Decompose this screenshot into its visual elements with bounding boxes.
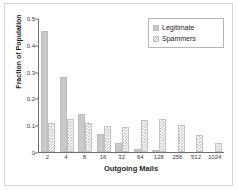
bar-legitimate-16 [97, 134, 104, 152]
bar-group [95, 19, 114, 152]
bar-spammers-4 [67, 119, 74, 152]
bar-spammers-1024 [215, 143, 222, 152]
bar-legitimate-2 [41, 31, 48, 152]
bar-legitimate-32 [115, 143, 122, 152]
bar-spammers-64 [141, 120, 148, 152]
legend-item-legitimate: Legitimate [153, 24, 219, 31]
legend-label-spammers: Spammers [162, 35, 196, 42]
legend-swatch-spammers-icon [153, 36, 159, 42]
bar-spammers-32 [122, 127, 129, 152]
bar-spammers-8 [85, 123, 92, 152]
legend-swatch-legitimate-icon [153, 25, 159, 31]
y-tick-label: 0.5 [27, 16, 35, 22]
y-tick-label: 0.4 [27, 43, 35, 49]
y-tick-label: 0.1 [27, 123, 35, 129]
y-tick-label: 0.2 [27, 96, 35, 102]
legend-item-spammers: Spammers [153, 35, 219, 42]
bar-legitimate-64 [134, 149, 141, 152]
legend: Legitimate Spammers [148, 18, 224, 48]
bar-spammers-2 [48, 123, 55, 152]
y-tick-label: 0.3 [27, 70, 35, 76]
bar-spammers-128 [159, 119, 166, 153]
bar-group [113, 19, 132, 152]
bar-legitimate-8 [78, 114, 85, 152]
bar-group [58, 19, 77, 152]
bar-legitimate-128 [152, 150, 159, 152]
figure: Fraction of Population 00.10.20.30.40.5 … [0, 0, 238, 190]
bar-legitimate-4 [60, 77, 67, 152]
legend-label-legitimate: Legitimate [162, 24, 194, 31]
bar-group [39, 19, 58, 152]
y-axis-ticks: 00.10.20.30.40.5 [0, 19, 38, 153]
bar-spammers-16 [104, 126, 111, 152]
bar-spammers-512 [196, 135, 203, 152]
x-axis-title: Outgoing Mails [38, 164, 224, 173]
bar-group [76, 19, 95, 152]
bar-spammers-256 [178, 125, 185, 152]
